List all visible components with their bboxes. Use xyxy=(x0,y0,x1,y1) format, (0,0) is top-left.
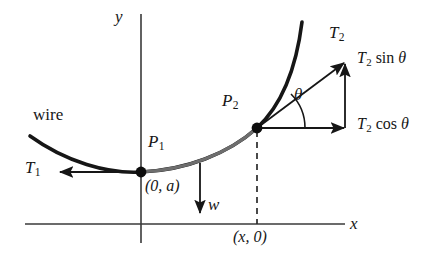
x-axis-label: x xyxy=(350,215,358,232)
wire-curve xyxy=(30,22,302,172)
angle-theta-label: θ xyxy=(294,86,302,103)
wire-label: wire xyxy=(33,106,63,123)
vector-t2-sin-theta-label: T2 sin θ xyxy=(357,50,406,68)
t2-sin-angle: θ xyxy=(398,49,406,66)
point-p1-letter: P xyxy=(148,132,158,151)
vector-t1-subscript: 1 xyxy=(34,166,40,179)
y-axis-label: y xyxy=(115,8,123,25)
t2-cos-trig: cos xyxy=(376,115,397,132)
point-p2-dot xyxy=(252,123,263,134)
coordinate-label-p1: (0, a) xyxy=(145,178,180,194)
point-p1-subscript: 1 xyxy=(158,140,164,153)
t2-sin-trig: sin xyxy=(376,49,395,66)
vector-t2-subscript: 2 xyxy=(338,31,344,44)
vector-t1-label: T1 xyxy=(25,159,41,179)
point-p2-label: P2 xyxy=(222,92,238,112)
coordinate-label-p2: (x, 0) xyxy=(233,229,267,245)
figure-canvas: y x wire P1 (0, a) P2 (x, 0) T1 w T2 T2 … xyxy=(0,0,443,266)
t2-sin-letter: T xyxy=(357,49,366,66)
point-p1-label: P1 xyxy=(148,133,164,153)
point-p1-dot xyxy=(136,167,147,178)
vector-t2-cos-theta-label: T2 cos θ xyxy=(357,116,409,134)
vector-w-label: w xyxy=(208,196,219,213)
point-p2-letter: P xyxy=(222,91,232,110)
point-p2-subscript: 2 xyxy=(232,99,238,112)
t2-cos-letter: T xyxy=(357,115,366,132)
t2-cos-angle: θ xyxy=(401,115,409,132)
vector-t2-label: T2 xyxy=(329,24,345,44)
